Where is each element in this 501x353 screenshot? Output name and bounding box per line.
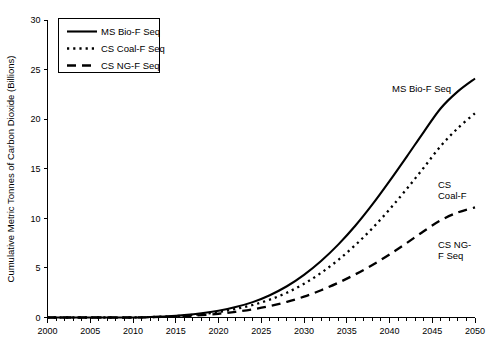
x-tick-label: 2040 (379, 326, 399, 336)
x-tick-label: 2045 (422, 326, 442, 336)
annotation-label: CS NG- (438, 239, 471, 250)
y-tick-label: 25 (30, 65, 40, 75)
x-tick-label: 2015 (166, 326, 186, 336)
x-tick-label: 2030 (294, 326, 314, 336)
annotation-label: MS Bio-F Seq (392, 83, 451, 94)
y-axis-title: Cumulative Metric Tonnes of Carbon Dioxi… (5, 56, 16, 283)
x-tick-label: 2010 (123, 326, 143, 336)
y-tick-label: 0 (35, 313, 40, 323)
line-chart: 051015202530 200020052010201520202025203… (0, 0, 501, 353)
y-tick-label: 5 (35, 263, 40, 273)
annotation-label: F Seq (438, 250, 463, 261)
x-tick-label: 2025 (251, 326, 271, 336)
x-tick-label: 2035 (337, 326, 357, 336)
y-tick-label: 30 (30, 15, 40, 25)
chart-container: 051015202530 200020052010201520202025203… (0, 0, 501, 353)
y-tick-label: 10 (30, 214, 40, 224)
annotation-label: Coal-F (438, 190, 467, 201)
x-tick-label: 2020 (208, 326, 228, 336)
x-tick-label: 2005 (80, 326, 100, 336)
legend-label: CS NG-F Seq (101, 60, 160, 71)
legend-label: MS Bio-F Seq (101, 26, 160, 37)
x-tick-label: 2000 (37, 326, 57, 336)
legend-label: CS Coal-F Seq (101, 43, 165, 54)
x-tick-label: 2050 (465, 326, 485, 336)
y-tick-label: 20 (30, 114, 40, 124)
y-tick-label: 15 (30, 164, 40, 174)
chart-legend: MS Bio-F SeqCS Coal-F SeqCS NG-F Seq (59, 19, 165, 73)
annotation-label: CS (438, 179, 451, 190)
